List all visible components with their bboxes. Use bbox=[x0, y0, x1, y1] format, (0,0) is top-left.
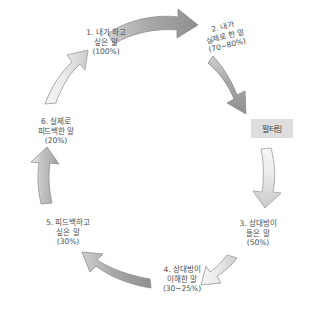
cycle-node-3-line1: 3. 상대방이 bbox=[214, 219, 302, 229]
filtering-callout-label: 필터링 bbox=[262, 123, 282, 134]
cycle-node-5: 5. 피드백하고 싶은 말 (30%) bbox=[20, 218, 116, 247]
arrow-filtering-icon bbox=[253, 148, 281, 208]
cycle-node-1-line1: 1. 내가 하고 bbox=[60, 28, 152, 38]
cycle-node-5-line1: 5. 피드백하고 bbox=[20, 218, 116, 228]
cycle-node-4-percent: (30~25%) bbox=[136, 284, 228, 294]
cycle-node-5-percent: (30%) bbox=[20, 237, 116, 247]
cycle-node-3-percent: (50%) bbox=[214, 238, 302, 248]
cycle-node-6-line2: 피드백한 말 bbox=[10, 127, 102, 137]
cycle-node-3-line2: 들은 말 bbox=[214, 229, 302, 239]
cycle-node-1-percent: (100%) bbox=[60, 47, 152, 57]
cycle-node-1: 1. 내가 하고 싶은 말 (100%) bbox=[60, 28, 152, 57]
cycle-node-6: 6. 실제로 피드백한 말 (20%) bbox=[10, 117, 102, 146]
arrow-2-to-3-icon bbox=[208, 56, 246, 114]
cycle-node-4-line1: 4. 상대방이 bbox=[136, 265, 228, 275]
cycle-diagram: 1. 내가 하고 싶은 말 (100%) 2. 내가 실제로 한 말 (70~8… bbox=[0, 0, 312, 327]
cycle-node-5-line2: 싶은 말 bbox=[20, 228, 116, 238]
cycle-node-3: 3. 상대방이 들은 말 (50%) bbox=[214, 219, 302, 248]
cycle-node-4-line2: 이해한 말 bbox=[136, 275, 228, 285]
arrow-6-to-1-icon bbox=[45, 50, 88, 104]
arrow-5-to-6-icon bbox=[31, 147, 59, 204]
cycle-node-1-line2: 싶은 말 bbox=[60, 38, 152, 48]
filtering-callout: 필터링 bbox=[251, 119, 293, 138]
cycle-node-6-percent: (20%) bbox=[10, 136, 102, 146]
cycle-node-6-line1: 6. 실제로 bbox=[10, 117, 102, 127]
cycle-node-4: 4. 상대방이 이해한 말 (30~25%) bbox=[136, 265, 228, 294]
